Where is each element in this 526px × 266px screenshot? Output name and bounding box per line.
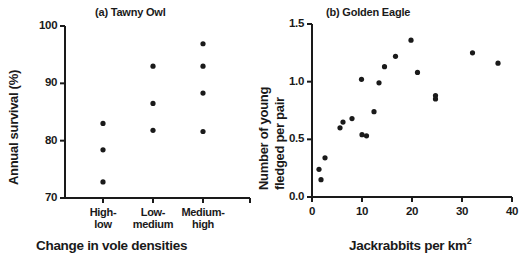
panel-golden-eagle: (b) Golden Eagle Jackrabbits per km2 0.0… — [263, 0, 526, 266]
panel-a-data-point — [200, 90, 205, 95]
panel-a-data-point — [200, 64, 205, 69]
panel-b-data-point — [408, 38, 413, 43]
panel-a-x-category-3: Medium-high — [172, 206, 234, 230]
panel-b-data-point — [470, 50, 475, 55]
panel-b-y-tick-0.0: 0.0 — [289, 190, 304, 202]
panel-a-y-tick-70: 70 — [45, 191, 57, 203]
panel-b-x-tick-40: 40 — [506, 205, 518, 217]
panel-a-x-category-2-line2: medium — [133, 218, 173, 230]
panel-a-x-category-2-line1: Low- — [141, 206, 165, 218]
panel-a-x-category-1-line2: low — [94, 218, 111, 230]
panel-a-data-point — [100, 147, 105, 152]
panel-b-data-point — [376, 80, 381, 85]
figure-container: (a) Tawny Owl Annual survival (%) Change… — [0, 0, 526, 266]
panel-b-data-point — [495, 61, 500, 66]
panel-b-y-tick-1.0: 1.0 — [289, 75, 304, 87]
panel-a-data-point — [150, 101, 155, 106]
panel-a-data-point — [100, 121, 105, 126]
panel-b-data-point — [359, 77, 364, 82]
panel-b-y-axis-label-line2: fledged per pair — [272, 97, 287, 190]
panel-a-data-point — [100, 179, 105, 184]
panel-b-data-point — [322, 155, 327, 160]
panel-b-data-point — [382, 64, 387, 69]
panel-a-y-tick-90: 90 — [45, 76, 57, 88]
panel-a-y-tick-100: 100 — [39, 19, 57, 31]
panel-tawny-owl: (a) Tawny Owl Annual survival (%) Change… — [0, 0, 263, 266]
panel-b-data-point — [318, 177, 323, 182]
panel-b-x-axis-label-superscript: 2 — [467, 236, 472, 246]
panel-a-y-tick-80: 80 — [45, 134, 57, 146]
panel-a-data-point — [200, 41, 205, 46]
panel-b-data-point — [393, 54, 398, 59]
panel-a-data-point — [150, 64, 155, 69]
panel-a-x-category-3-line2: high — [192, 218, 214, 230]
panel-b-data-point — [316, 167, 321, 172]
panel-b-x-tick-20: 20 — [406, 205, 418, 217]
panel-b-data-point — [415, 70, 420, 75]
panel-b-x-axis-label: Jackrabbits per km2 — [349, 236, 471, 253]
panel-b-data-point — [349, 116, 354, 121]
panel-b-data-point — [364, 133, 369, 138]
panel-b-data-point — [371, 109, 376, 114]
panel-a-x-category-1-line1: High- — [90, 206, 117, 218]
panel-b-x-axis-label-text: Jackrabbits per km — [349, 238, 467, 253]
panel-b-x-tick-10: 10 — [356, 205, 368, 217]
panel-b-x-tick-0: 0 — [309, 205, 315, 217]
panel-b-data-point — [340, 119, 345, 124]
panel-b-data-point — [337, 125, 342, 130]
panel-b-x-tick-30: 30 — [456, 205, 468, 217]
panel-b-y-axis-label-line1: Number of young — [256, 87, 271, 190]
panel-b-data-point — [433, 96, 438, 101]
panel-a-x-category-3-line1: Medium- — [181, 206, 224, 218]
panel-b-data-point — [359, 132, 364, 137]
panel-b-y-tick-1.5: 1.5 — [289, 17, 304, 29]
panel-b-y-tick-0.5: 0.5 — [289, 132, 304, 144]
panel-a-data-point — [200, 129, 205, 134]
panel-a-data-point — [150, 128, 155, 133]
